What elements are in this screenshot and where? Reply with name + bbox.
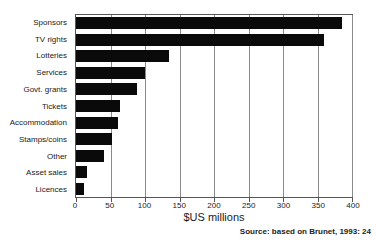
- bar-row: [76, 180, 352, 197]
- y-axis-label: Licences: [0, 181, 67, 198]
- bar-sponsors: [76, 17, 342, 29]
- bar-row: [76, 65, 352, 82]
- y-axis-label: Tickets: [0, 98, 67, 115]
- y-axis-label: Stamps/coins: [0, 131, 67, 148]
- bar-row: [76, 147, 352, 164]
- bar-services: [76, 67, 145, 79]
- bar-tickets: [76, 100, 120, 112]
- x-tick-label-200: 200: [207, 201, 220, 210]
- y-axis-label: Govt. grants: [0, 81, 67, 98]
- bar-row: [76, 164, 352, 181]
- y-axis-label: Other: [0, 148, 67, 165]
- x-tick-label-100: 100: [138, 201, 151, 210]
- bar-row: [76, 98, 352, 115]
- y-axis-label: Services: [0, 64, 67, 81]
- bar-row: [76, 114, 352, 131]
- bar-row: [76, 81, 352, 98]
- bar-row: [76, 15, 352, 32]
- bar-licences: [76, 183, 84, 195]
- revenue-bar-chart: SponsorsTV rightsLotteriesServicesGovt. …: [0, 0, 376, 245]
- bar-row: [76, 48, 352, 65]
- gridline-400: [352, 15, 353, 197]
- x-tick-label-400: 400: [346, 201, 359, 210]
- y-axis-label: TV rights: [0, 31, 67, 48]
- bar-stamps-coins: [76, 133, 112, 145]
- x-tick-label-250: 250: [242, 201, 255, 210]
- y-axis-labels: SponsorsTV rightsLotteriesServicesGovt. …: [0, 14, 75, 198]
- plot-area: [75, 14, 353, 198]
- y-axis-label: Accommodation: [0, 114, 67, 131]
- bar-row: [76, 32, 352, 49]
- y-axis-label: Lotteries: [0, 47, 67, 64]
- x-tick-label-150: 150: [173, 201, 186, 210]
- bar-accommodation: [76, 117, 118, 129]
- x-axis-ticks: 050100150200250300350400: [75, 201, 353, 211]
- x-tick-label-350: 350: [312, 201, 325, 210]
- x-tick-label-50: 50: [105, 201, 114, 210]
- bar-lotteries: [76, 50, 169, 62]
- y-axis-label: Asset sales: [0, 165, 67, 182]
- y-axis-label: Sponsors: [0, 14, 67, 31]
- x-axis-title: $US millions: [75, 211, 353, 223]
- x-tick-label-300: 300: [277, 201, 290, 210]
- source-note: Source: based on Brunet, 1993: 24: [240, 227, 371, 236]
- bar-tv-rights: [76, 34, 324, 46]
- bar-asset-sales: [76, 166, 87, 178]
- bar-other: [76, 150, 104, 162]
- x-tick-label-0: 0: [73, 201, 77, 210]
- bar-govt-grants: [76, 83, 137, 95]
- bar-row: [76, 131, 352, 148]
